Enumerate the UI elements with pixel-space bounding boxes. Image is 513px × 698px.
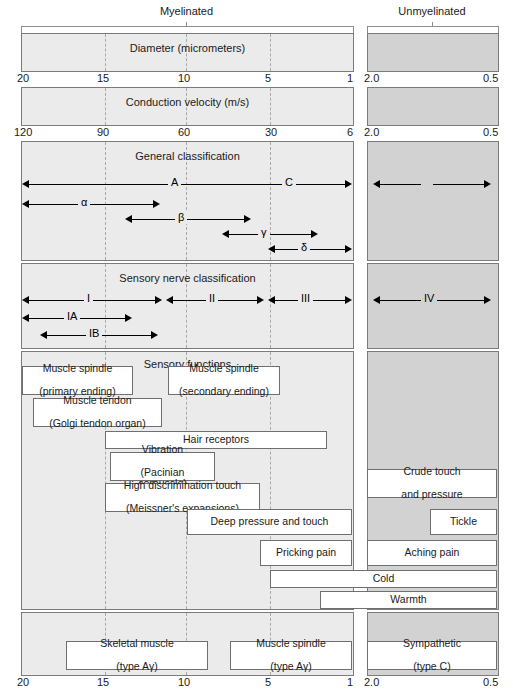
axis-diameter-tick-3: 5 [265, 72, 271, 84]
band-title-diameter: Diameter (micrometers) [22, 42, 353, 54]
box-line-1: Tickle [447, 516, 480, 528]
axis-velocity-tick-4: 6 [347, 126, 353, 138]
box-line-1: Cold [370, 573, 398, 585]
box-line-1: Aching pain [402, 547, 463, 559]
arrow-sensory-IB: IB [40, 329, 158, 342]
box-line-1: Muscle spindle [176, 363, 272, 375]
box-line-1: Pricking pain [273, 547, 339, 559]
box-line-1: Muscle spindle [36, 363, 118, 375]
bracket-myelinated [21, 26, 354, 33]
function-box-cold: Cold [270, 570, 497, 588]
arrow-sensory-II: II [166, 294, 264, 307]
axis-diameter-tick-1: 15 [97, 72, 109, 84]
band-title-sensory-classification: Sensory nerve classification [22, 272, 353, 284]
header-label-unmyelinated: Unmyelinated [367, 5, 497, 17]
box-line-2: (type C) [400, 661, 464, 673]
header-label-myelinated: Myelinated [21, 5, 352, 17]
arrow-sensory-IV: IV [373, 294, 491, 307]
box-line-1: Vibration [114, 444, 211, 456]
function-box-tickle: Tickle [430, 509, 497, 535]
panel-general-unmyelinated [367, 141, 499, 261]
arrow-label-C: C [282, 176, 296, 189]
function-box-aching-pain: Aching pain [367, 540, 497, 566]
axis-velocity-un-tick-1: 0.5 [483, 126, 498, 138]
box-line-1: Muscle tendon [46, 395, 148, 407]
motor-box-sympathetic: Sympathetic (type C) [367, 641, 497, 670]
axis-bottom-un-tick-0: 2.0 [364, 676, 379, 688]
box-line-2: and pressure [398, 489, 465, 501]
arrow-label-IA: IA [64, 310, 80, 323]
arrow-class-alpha: α [22, 198, 160, 211]
box-line-2: (type Aγ) [253, 661, 328, 673]
axis-bottom-tick-3: 5 [265, 676, 271, 688]
axis-diameter-tick-0: 20 [17, 72, 29, 84]
box-line-2: (secondary ending) [176, 386, 272, 398]
arrow-sensory-I: I [22, 294, 162, 307]
axis-diameter-un-tick-1: 0.5 [483, 72, 498, 84]
arrow-class-A: A [22, 178, 352, 191]
arrow-class-gamma: γ [222, 228, 318, 241]
axis-bottom-tick-2: 10 [178, 676, 190, 688]
bracket-unmyelinated [367, 26, 499, 33]
arrow-label-IV: IV [421, 292, 437, 305]
arrow-label-I: I [84, 292, 93, 305]
axis-bottom-un-tick-1: 0.5 [483, 676, 498, 688]
motor-box-skeletal-muscle: Skeletal muscle (type Aγ) [66, 641, 208, 670]
panel-diameter-myelinated: Diameter (micrometers) [21, 33, 354, 72]
arrow-class-C-unmyelinated [373, 178, 491, 191]
panel-velocity-unmyelinated [367, 87, 499, 126]
function-box-muscle-spindle-primary: Muscle spindle (primary ending) [22, 366, 133, 395]
box-line-1: Crude touch [398, 466, 465, 478]
box-line-1: High discrimination touch [121, 480, 244, 492]
arrow-label-IB: IB [86, 327, 102, 340]
function-box-deep-pressure-and-touch: Deep pressure and touch [187, 509, 352, 535]
function-box-vibration: Vibration (Pacinian corpuscle) [110, 452, 215, 481]
function-box-muscle-tendon: Muscle tendon (Golgi tendon organ) [33, 398, 162, 427]
arrow-label-A: A [168, 176, 181, 189]
axis-velocity-tick-3: 30 [265, 126, 277, 138]
arrow-label-III: III [298, 292, 313, 305]
arrow-sensory-III: III [268, 294, 352, 307]
box-line-1: Deep pressure and touch [208, 516, 332, 528]
box-line-1: Muscle spindle [253, 638, 328, 650]
box-line-2: (type Aγ) [97, 661, 177, 673]
axis-bottom-tick-1: 15 [97, 676, 109, 688]
function-box-pricking-pain: Pricking pain [260, 540, 352, 566]
function-box-muscle-spindle-secondary: Muscle spindle (secondary ending) [168, 366, 280, 395]
axis-velocity-tick-1: 90 [97, 126, 109, 138]
axis-velocity-un-tick-0: 2.0 [364, 126, 379, 138]
box-line-1: Sympathetic [400, 638, 464, 650]
arrow-sensory-IA: IA [22, 312, 132, 325]
nerve-fiber-classification-diagram: Myelinated Unmyelinated Diameter (microm… [0, 0, 513, 698]
box-line-1: Warmth [387, 594, 429, 606]
box-line-2: (Golgi tendon organ) [46, 418, 148, 430]
arrow-class-delta: δ [268, 243, 352, 256]
axis-bottom-tick-0: 20 [17, 676, 29, 688]
function-box-crude-touch-and-pressure: Crude touch and pressure [367, 469, 497, 498]
motor-box-muscle-spindle: Muscle spindle (type Aγ) [230, 641, 352, 670]
box-line-1: Skeletal muscle [97, 638, 177, 650]
axis-diameter-tick-4: 1 [347, 72, 353, 84]
axis-velocity-tick-2: 60 [178, 126, 190, 138]
panel-diameter-unmyelinated [367, 33, 499, 72]
arrow-label-II: II [206, 292, 218, 305]
function-box-high-discrimination-touch: High discrimination touch (Meissner's ex… [105, 483, 260, 512]
arrow-label-beta: β [175, 211, 187, 224]
arrow-class-beta: β [125, 213, 251, 226]
axis-velocity-tick-0: 120 [14, 126, 32, 138]
band-title-velocity: Conduction velocity (m/s) [22, 96, 353, 108]
axis-diameter-tick-2: 10 [178, 72, 190, 84]
arrow-label-delta: δ [298, 241, 310, 254]
axis-bottom-tick-4: 1 [347, 676, 353, 688]
panel-velocity-myelinated: Conduction velocity (m/s) [21, 87, 354, 126]
axis-diameter-un-tick-0: 2.0 [364, 72, 379, 84]
function-box-warmth: Warmth [320, 591, 497, 609]
band-title-general-classification: General classification [22, 150, 353, 162]
arrow-label-gamma: γ [258, 226, 270, 239]
arrow-label-alpha: α [78, 196, 90, 209]
